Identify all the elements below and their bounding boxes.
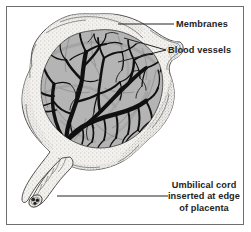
label-umbilical-cord: Umbilical cord inserted at edge of place… <box>164 180 244 214</box>
label-membranes: Membranes <box>176 19 228 30</box>
label-umbilical-cord-line3: of placenta <box>164 203 244 214</box>
label-blood-vessels-text: Blood vessels <box>168 45 231 55</box>
label-umbilical-cord-line1: Umbilical cord <box>164 180 244 191</box>
label-membranes-text: Membranes <box>176 19 228 29</box>
label-umbilical-cord-line2: inserted at edge <box>164 191 244 202</box>
illustration-figure: Membranes Blood vessels Umbilical cord i… <box>0 0 251 232</box>
label-blood-vessels: Blood vessels <box>168 45 231 56</box>
